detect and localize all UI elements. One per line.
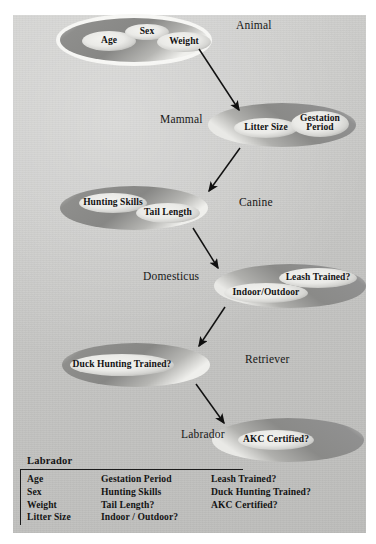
attribute-label-domesticus-1: Indoor/Outdoor (186, 288, 346, 298)
inheritance-arrow-animal-to-mammal (199, 49, 239, 110)
inheritance-arrow-canine-to-domesticus (193, 228, 218, 268)
summary-item: Age (27, 473, 101, 486)
attribute-label-mammal-1: GestationPeriod (240, 114, 376, 132)
attribute-label-animal-1: Sex (67, 27, 227, 37)
summary-column-2: Leash Trained?Duck Hunting Trained?AKC C… (211, 473, 331, 524)
summary-item: Hunting Skills (101, 486, 211, 499)
attribute-label-domesticus-0: Leash Trained? (238, 273, 376, 283)
summary-item: Duck Hunting Trained? (211, 486, 331, 499)
attribute-label-animal-2: Weight (104, 37, 264, 47)
summary-item: Tail Length? (101, 499, 211, 512)
diagram-figure: AnimalMammalCanineDomesticusRetrieverLab… (0, 0, 376, 544)
summary-title: Labrador (20, 455, 260, 466)
summary-item: Weight (27, 499, 101, 512)
summary-item: AKC Certified? (211, 499, 331, 512)
class-label-domesticus: Domesticus (143, 270, 199, 282)
attribute-label-labrador-0: AKC Certified? (196, 435, 356, 445)
class-label-canine: Canine (239, 196, 273, 208)
summary-column-1: Gestation PeriodHunting SkillsTail Lengt… (101, 473, 211, 524)
summary-item: Sex (27, 486, 101, 499)
summary-item: Gestation Period (101, 473, 211, 486)
attribute-label-canine-1: Tail Length (88, 208, 248, 218)
inheritance-arrow-domesticus-to-retriever (199, 307, 225, 346)
summary-item: Litter Size (27, 511, 101, 524)
summary-left-rule (20, 469, 21, 525)
inheritance-arrow-mammal-to-canine (209, 148, 240, 191)
summary-item: Leash Trained? (211, 473, 331, 486)
inheritance-arrow-retriever-to-labrador (196, 384, 224, 423)
class-label-animal: Animal (236, 19, 272, 31)
summary-top-rule (20, 469, 243, 470)
summary-item: Indoor / Outdoor? (101, 511, 211, 524)
summary-column-0: AgeSexWeightLitter Size (27, 473, 101, 524)
summary-table: Labrador AgeSexWeightLitter SizeGestatio… (20, 455, 260, 466)
attribute-label-retriever-0: Duck Hunting Trained? (42, 360, 202, 370)
class-label-retriever: Retriever (245, 353, 290, 365)
summary-columns: AgeSexWeightLitter SizeGestation PeriodH… (27, 473, 331, 524)
